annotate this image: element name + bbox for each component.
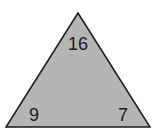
bottom-right-number: 7 bbox=[118, 105, 128, 125]
triangle-shape bbox=[6, 13, 150, 127]
triangle-diagram: 16 9 7 bbox=[0, 0, 156, 137]
top-number: 16 bbox=[68, 34, 88, 54]
bottom-left-number: 9 bbox=[29, 105, 39, 125]
